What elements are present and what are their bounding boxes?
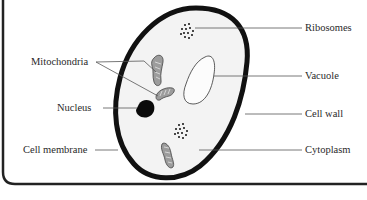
label-mitochondria: Mitochondria: [31, 56, 88, 68]
label-ribosomes: Ribosomes: [305, 22, 352, 34]
label-cell-membrane: Cell membrane: [23, 144, 87, 156]
label-cell-wall: Cell wall: [305, 108, 343, 120]
label-vacuole: Vacuole: [305, 70, 339, 82]
label-nucleus: Nucleus: [57, 102, 91, 114]
cell-diagram: Ribosomes Mitochondria Vacuole Nucleus C…: [0, 0, 367, 200]
label-cytoplasm: Cytoplasm: [305, 144, 351, 156]
